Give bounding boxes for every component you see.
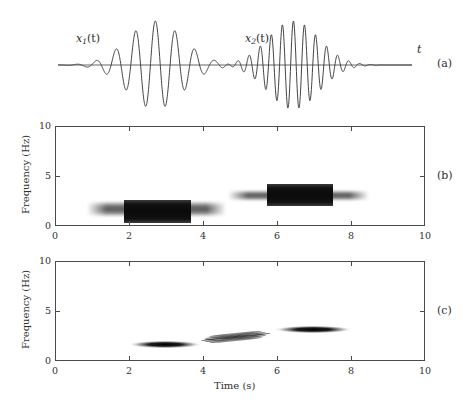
spectrogram-blob-core [124, 200, 191, 223]
panel-marker-b: (b) [437, 170, 453, 181]
x-tick-c-2 [129, 356, 130, 360]
x-ticklabel-c-4: 4 [191, 366, 215, 376]
wigner-axes-box [55, 261, 425, 361]
x-ticklabel-c-8: 8 [339, 366, 363, 376]
panel-marker-c: (c) [437, 305, 452, 316]
x-tick-b-2 [129, 221, 130, 225]
x-ticklabel-c-0: 0 [43, 366, 67, 376]
y-ticklabel-c-10: 10 [29, 256, 51, 266]
x-tick-top-b-6 [277, 127, 278, 131]
x-ticklabel-c-6: 6 [265, 366, 289, 376]
x-ticklabel-b-4: 4 [191, 231, 215, 241]
x-tick-b-6 [277, 221, 278, 225]
x-tick-top-c-4 [203, 262, 204, 266]
panel-a-time-signal: x1(t) x2(t) t (a) [0, 0, 476, 118]
x-axis-title: Time (s) [214, 381, 255, 391]
x-tick-top-b-8 [351, 127, 352, 131]
spectrogram-axes-box [55, 126, 425, 226]
y-ticklabel-c-5: 5 [29, 306, 51, 316]
signal-curve [58, 21, 412, 108]
spectrogram-blob-core [267, 184, 334, 207]
x-ticklabel-c-10: 10 [413, 366, 437, 376]
x-tick-top-c-6 [277, 262, 278, 266]
x-tick-top-c-8 [351, 262, 352, 266]
panel-marker-a: (a) [437, 58, 452, 69]
x-tick-b-4 [203, 221, 204, 225]
y-tick-c-5 [56, 311, 60, 312]
label-x1-of-t: x1(t) [76, 33, 100, 45]
y-axis-title-b: Frequency (Hz) [21, 135, 31, 214]
label-x2-of-t: x2(t) [245, 33, 269, 45]
x-tick-c-8 [351, 356, 352, 360]
x-ticklabel-b-6: 6 [265, 231, 289, 241]
x-tick-top-b-4 [203, 127, 204, 131]
x-tick-c-6 [277, 356, 278, 360]
x-tick-top-b-2 [129, 127, 130, 131]
x-ticklabel-b-10: 10 [413, 231, 437, 241]
x-ticklabel-b-8: 8 [339, 231, 363, 241]
x-ticklabel-b-0: 0 [43, 231, 67, 241]
y-ticklabel-b-10: 10 [29, 121, 51, 131]
wvd-auto-term [273, 326, 353, 334]
y-tick-b-5 [56, 176, 60, 177]
y-ticklabel-b-5: 5 [29, 171, 51, 181]
y-tick-right-b-5 [420, 176, 424, 177]
y-ticklabel-b-0: 0 [29, 221, 51, 231]
x-ticklabel-b-2: 2 [117, 231, 141, 241]
y-axis-title-c: Frequency (Hz) [21, 270, 31, 349]
wigner-distribution-plot [56, 262, 425, 361]
x-tick-top-c-2 [129, 262, 130, 266]
x-tick-c-4 [203, 356, 204, 360]
y-ticklabel-c-0: 0 [29, 356, 51, 366]
x-ticklabel-c-2: 2 [117, 366, 141, 376]
time-frequency-figure: x1(t) x2(t) t (a) (b) (c) 02468100510Fre… [0, 0, 476, 407]
label-time-axis: t [417, 44, 421, 55]
wvd-auto-term [128, 341, 202, 349]
y-tick-right-c-5 [420, 311, 424, 312]
signal-waveform-plot [0, 0, 476, 118]
x-tick-b-8 [351, 221, 352, 225]
